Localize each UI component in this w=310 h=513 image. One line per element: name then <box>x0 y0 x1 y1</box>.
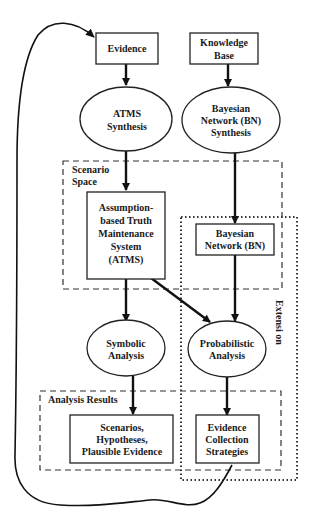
node-evidence: Evidence <box>96 33 158 64</box>
bn-label-line2: Network (BN) <box>205 240 265 252</box>
evidence-collection-label-line1: Evidence <box>208 422 247 433</box>
node-bn-synthesis: Bayesian Network (BN) Synthesis <box>182 87 280 153</box>
diagram: Scenario Space Analysis Results Extensi … <box>0 0 310 513</box>
atms-label-line3: Maintenance <box>98 228 154 239</box>
atms-label-line2: based Truth <box>100 215 152 226</box>
bn-label-line1: Bayesian <box>216 228 255 239</box>
evidence-collection-label-line2: Collection <box>205 434 249 445</box>
bn-synthesis-label-line2: Network (BN) <box>201 115 261 127</box>
node-bn: Bayesian Network (BN) <box>196 224 274 255</box>
knowledge-base-label-line1: Knowledge <box>200 37 248 48</box>
node-symbolic-analysis: Symbolic Analysis <box>87 320 165 376</box>
bn-synthesis-label-line3: Synthesis <box>211 127 251 138</box>
node-evidence-collection: Evidence Collection Strategies <box>196 415 259 463</box>
probabilistic-analysis-label-line1: Probabilistic <box>200 338 255 349</box>
node-atms: Assumption- based Truth Maintenance Syst… <box>87 192 165 279</box>
node-knowledge-base: Knowledge Base <box>190 33 258 64</box>
scenario-space-label-line2: Space <box>72 176 98 187</box>
scenario-space-label-line1: Scenario <box>72 164 109 175</box>
knowledge-base-label-line2: Base <box>214 50 235 61</box>
atms-label-line5: (ATMS) <box>109 254 144 266</box>
symbolic-analysis-label-line2: Analysis <box>108 350 144 361</box>
evidence-collection-label-line3: Strategies <box>206 446 248 457</box>
atms-label-line1: Assumption- <box>99 202 153 213</box>
atms-synthesis-label-line1: ATMS <box>113 108 142 119</box>
extension-label: Extensi on <box>274 300 285 345</box>
atms-synthesis-label-line2: Synthesis <box>107 121 147 132</box>
scenarios-label-line2: Hypotheses, <box>96 434 148 445</box>
scenarios-label-line1: Scenarios, <box>100 422 144 433</box>
analysis-results-label: Analysis Results <box>48 394 118 405</box>
node-atms-synthesis: ATMS Synthesis <box>80 87 172 151</box>
node-probabilistic-analysis: Probabilistic Analysis <box>188 321 266 377</box>
edge-atms-to-probabilistic <box>151 278 210 322</box>
symbolic-analysis-label-line1: Symbolic <box>106 338 146 349</box>
probabilistic-analysis-label-line2: Analysis <box>209 350 245 361</box>
scenarios-label-line3: Plausible Evidence <box>82 446 163 457</box>
atms-label-line4: System <box>111 241 142 252</box>
bn-synthesis-label-line1: Bayesian <box>212 103 251 114</box>
node-scenarios: Scenarios, Hypotheses, Plausible Evidenc… <box>70 415 173 463</box>
evidence-label: Evidence <box>108 43 147 54</box>
